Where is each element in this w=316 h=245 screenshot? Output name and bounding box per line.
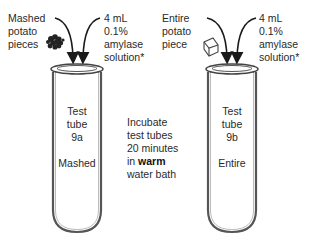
tube-label-9a: Test tube 9a Mashed <box>53 105 101 170</box>
tube-label-9b: Test tube 9b Entire <box>208 105 256 170</box>
reagent-label-left: 4 mL 0.1% amylase solution* <box>104 12 144 64</box>
potato-cube-icon <box>204 38 218 56</box>
emphasis-warm: warm <box>138 155 165 167</box>
incubation-instruction: Incubate test tubes 20 minutes in warm w… <box>127 116 178 181</box>
tube-state-entire: Entire <box>208 157 256 170</box>
sample-label-mashed: Mashed potato pieces <box>8 12 45 51</box>
arrow-amylase-into-tube-9b <box>237 18 256 58</box>
reagent-label-right: 4 mL 0.1% amylase solution* <box>259 12 299 64</box>
tube-state-mashed: Mashed <box>53 157 101 170</box>
arrow-amylase-into-tube-9a <box>83 18 100 58</box>
mashed-potato-pieces-icon <box>46 34 65 49</box>
sample-label-entire: Entire potato piece <box>162 12 191 51</box>
